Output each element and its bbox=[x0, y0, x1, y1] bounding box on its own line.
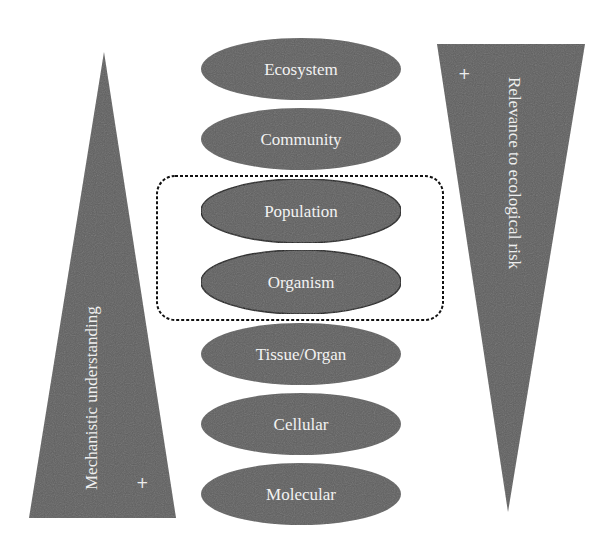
left-wedge-plus-marker: + bbox=[136, 474, 149, 492]
right-wedge-plus-marker: + bbox=[458, 65, 471, 83]
level-cellular: Cellular bbox=[201, 393, 401, 455]
level-label: Population bbox=[264, 202, 338, 221]
mechanistic-understanding-wedge: Mechanistic understanding + bbox=[29, 52, 176, 518]
level-label: Organism bbox=[268, 273, 335, 292]
levels-of-organization-diagram: Mechanistic understanding + Relevance to… bbox=[0, 0, 614, 553]
right-wedge-label: Relevance to ecological risk bbox=[505, 77, 524, 270]
level-molecular: Molecular bbox=[201, 463, 401, 525]
level-label: Community bbox=[260, 130, 342, 149]
level-label: Ecosystem bbox=[264, 60, 338, 79]
level-tissue-organ: Tissue/Organ bbox=[201, 323, 401, 385]
level-label: Tissue/Organ bbox=[256, 345, 347, 364]
left-wedge-label: Mechanistic understanding bbox=[82, 306, 101, 490]
level-label: Molecular bbox=[266, 485, 336, 504]
level-ecosystem: Ecosystem bbox=[201, 38, 401, 100]
level-community: Community bbox=[201, 108, 401, 170]
relevance-to-ecological-risk-wedge: Relevance to ecological risk + bbox=[437, 44, 585, 512]
level-organism: Organism bbox=[201, 250, 401, 314]
left-triangle-shape bbox=[29, 52, 176, 518]
level-population: Population bbox=[201, 179, 401, 243]
level-label: Cellular bbox=[274, 415, 329, 434]
